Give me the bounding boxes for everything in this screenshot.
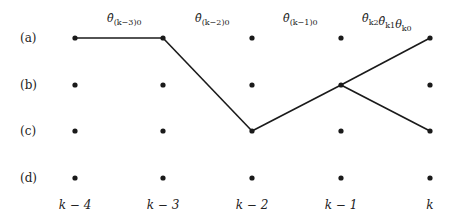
column-labels: k − 4k − 3k − 2k − 1k bbox=[59, 198, 434, 212]
trellis-nodes bbox=[72, 35, 432, 180]
edge-label-theta: θ̂(k−1)0 bbox=[283, 12, 318, 27]
row-label-a: (a) bbox=[20, 31, 37, 45]
node-k-c bbox=[427, 128, 432, 133]
node-k-3-a bbox=[160, 35, 165, 40]
node-k-1-a bbox=[338, 35, 343, 40]
node-k-3-d bbox=[160, 175, 165, 180]
path-edge bbox=[341, 38, 430, 85]
column-label-k-3: k − 3 bbox=[147, 198, 180, 212]
trellis-diagram: (a)(b)(c)(d) k − 4k − 3k − 2k − 1k θ̂(k−… bbox=[0, 0, 452, 219]
node-k-4-b bbox=[72, 82, 77, 87]
node-k-4-a bbox=[72, 35, 77, 40]
row-label-b: (b) bbox=[20, 78, 37, 92]
column-label-k-1: k − 1 bbox=[325, 198, 358, 212]
edge-label-theta: θ̂k2θ̂k1θk0 bbox=[362, 12, 412, 33]
node-k-1-c bbox=[338, 128, 343, 133]
node-k-4-c bbox=[72, 128, 77, 133]
node-k-2-b bbox=[249, 82, 254, 87]
node-k-1-d bbox=[338, 175, 343, 180]
node-k-d bbox=[427, 175, 432, 180]
path-edge bbox=[341, 85, 430, 131]
row-label-d: (d) bbox=[20, 171, 37, 185]
column-label-k: k bbox=[426, 198, 433, 212]
node-k-2-d bbox=[249, 175, 254, 180]
row-labels: (a)(b)(c)(d) bbox=[20, 31, 37, 185]
row-label-c: (c) bbox=[20, 124, 36, 138]
path-edge bbox=[252, 85, 341, 131]
node-k-a bbox=[427, 35, 432, 40]
node-k-2-c bbox=[249, 128, 254, 133]
node-k-3-b bbox=[160, 82, 165, 87]
column-label-k-2: k − 2 bbox=[236, 198, 269, 212]
edge-label-theta: θ̂(k−2)0 bbox=[195, 12, 230, 27]
column-label-k-4: k − 4 bbox=[59, 198, 92, 212]
node-k-1-b bbox=[338, 82, 343, 87]
node-k-3-c bbox=[160, 128, 165, 133]
node-k-2-a bbox=[249, 35, 254, 40]
edge-labels: θ̂(k−3)0θ̂(k−2)0θ̂(k−1)0θ̂k2θ̂k1θk0 bbox=[107, 12, 412, 33]
node-k-b bbox=[427, 82, 432, 87]
edge-label-theta: θ̂(k−3)0 bbox=[107, 12, 142, 27]
node-k-4-d bbox=[72, 175, 77, 180]
path-edge bbox=[163, 38, 252, 131]
